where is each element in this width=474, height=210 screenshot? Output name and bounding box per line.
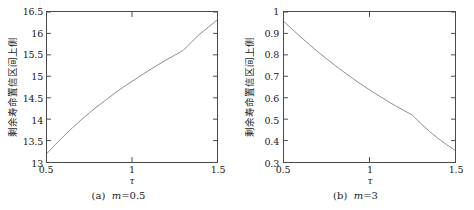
x-tick-label: 0.5 (273, 165, 293, 175)
caption-var-b: m (354, 190, 363, 201)
y-tick-label: 13.5 (23, 137, 43, 147)
panel-b: 剩余寿命置信区间上侧 1 0.9 0.8 0.7 0.6 0.5 0.4 0.3 (237, 0, 474, 210)
caption-eq-a: =0.5 (121, 190, 145, 201)
y-tick-labels-a: 16.5 16 15.5 15 14.5 14 13.5 13 (17, 11, 43, 163)
x-tick-label: 0.5 (36, 165, 56, 175)
y-ticks-b (284, 12, 455, 141)
plot-area-a (46, 11, 218, 163)
figure-container: 剩余寿命置信区间上侧 16.5 16 15.5 15 14.5 14 13.5 … (0, 0, 474, 210)
plot-area-b (283, 11, 456, 163)
y-tick-label: 16 (31, 29, 43, 39)
y-tick-label: 0.9 (264, 29, 279, 39)
x-axis-label-b: τ (350, 176, 390, 186)
caption-index-b: (b) (333, 190, 347, 201)
y-tick-label: 0.5 (264, 116, 279, 126)
y-tick-label: 16.5 (23, 7, 43, 17)
y-tick-label: 14.5 (23, 94, 43, 104)
caption-index-a: (a) (92, 190, 106, 201)
caption-eq-b: =3 (363, 190, 378, 201)
caption-a: (a) m=0.5 (0, 190, 237, 201)
x-axis-label-a: τ (112, 176, 152, 186)
y-tick-label: 1 (273, 7, 279, 17)
plot-svg-a (47, 12, 217, 162)
y-tick-label: 15.5 (23, 50, 43, 60)
y-tick-label: 0.7 (264, 72, 279, 82)
plot-svg-b (284, 12, 455, 162)
y-tick-label: 0.4 (264, 137, 279, 147)
y-tick-labels-b: 1 0.9 0.8 0.7 0.6 0.5 0.4 0.3 (253, 11, 279, 163)
y-ticks-a (47, 12, 217, 141)
panel-a: 剩余寿命置信区间上侧 16.5 16 15.5 15 14.5 14 13.5 … (0, 0, 237, 210)
data-curve-a (47, 20, 217, 153)
y-tick-label: 0.6 (264, 94, 279, 104)
caption-b: (b) m=3 (237, 190, 474, 201)
x-tick-label: 1 (122, 165, 142, 175)
x-tick-label: 1.5 (208, 165, 228, 175)
x-tick-label: 1.5 (446, 165, 466, 175)
y-tick-label: 15 (31, 72, 43, 82)
data-curve-b (284, 22, 455, 151)
caption-var-a: m (112, 190, 121, 201)
y-tick-label: 14 (31, 116, 43, 126)
y-tick-label: 0.8 (264, 50, 279, 60)
x-tick-label: 1 (360, 165, 380, 175)
